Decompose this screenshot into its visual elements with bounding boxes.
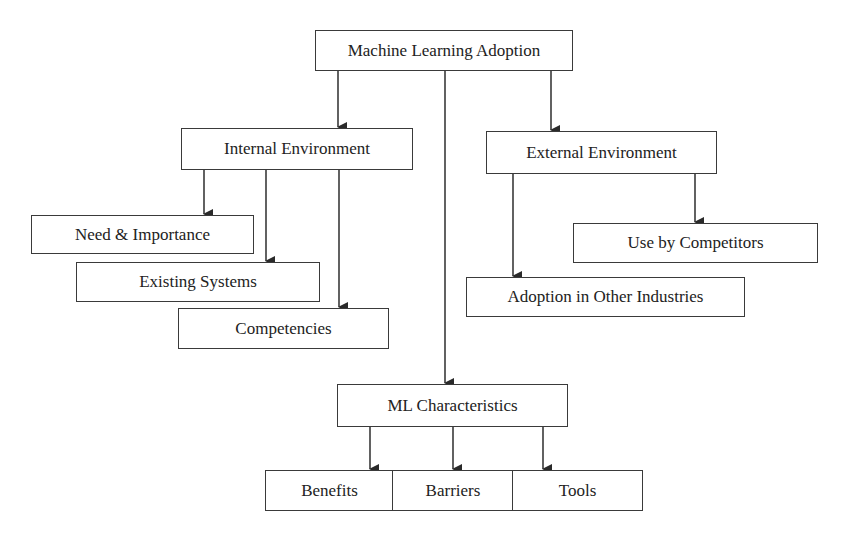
node-existing-systems: Existing Systems	[76, 262, 320, 302]
node-adoption-other-industries: Adoption in Other Industries	[466, 277, 745, 317]
node-label: Existing Systems	[139, 272, 257, 292]
node-internal-environment: Internal Environment	[181, 128, 413, 170]
node-barriers: Barriers	[392, 470, 514, 511]
node-label: Competencies	[235, 319, 331, 339]
node-external-environment: External Environment	[486, 131, 717, 174]
node-label: Adoption in Other Industries	[508, 287, 704, 307]
node-need-importance: Need & Importance	[31, 215, 254, 254]
node-label: Use by Competitors	[628, 233, 764, 253]
node-label: Internal Environment	[224, 139, 370, 159]
node-machine-learning-adoption: Machine Learning Adoption	[315, 30, 573, 71]
node-competencies: Competencies	[178, 308, 389, 349]
node-label: External Environment	[526, 143, 677, 163]
node-label: Barriers	[426, 481, 481, 501]
node-ml-characteristics: ML Characteristics	[337, 384, 568, 427]
node-label: Tools	[559, 481, 597, 501]
node-benefits: Benefits	[265, 470, 394, 511]
node-tools: Tools	[512, 470, 643, 511]
node-label: ML Characteristics	[387, 396, 517, 416]
node-use-by-competitors: Use by Competitors	[573, 223, 818, 263]
node-label: Need & Importance	[75, 225, 210, 245]
node-label: Machine Learning Adoption	[348, 41, 541, 61]
node-label: Benefits	[301, 481, 358, 501]
